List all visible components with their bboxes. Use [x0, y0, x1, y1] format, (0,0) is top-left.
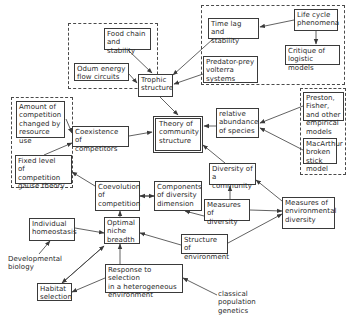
arrow-measures-div-to-components	[185, 211, 204, 216]
arrow-diversity-comm-to-theory	[203, 145, 225, 163]
node-macarthur: MacArthur broken stick model	[303, 138, 337, 164]
arrow-preston-to-rel-abundance	[260, 106, 303, 123]
node-food-chain: Food chain and stability	[104, 28, 151, 50]
node-life-cycle: Life cycle phenomena	[294, 9, 338, 31]
node-theory: Theory of community structure	[153, 116, 203, 153]
node-trophic: Trophic structure	[138, 74, 173, 97]
node-response: Response to selection in a heterogeneous…	[105, 264, 183, 293]
arrow-coexistence-to-theory	[129, 132, 152, 136]
arrow-response-to-habitat	[72, 278, 105, 292]
node-diversity-comm: Diversity of a community	[209, 163, 256, 185]
node-predator-prey: Predator-prey volterra systems	[203, 56, 258, 83]
arrow-developmental-to-homeostasis	[39, 241, 50, 254]
node-niche: Optimal niche breadth	[104, 217, 140, 244]
arrow-trophic-to-theory	[160, 97, 178, 115]
node-critique: Critique of logistic models	[285, 45, 340, 65]
arrow-measures-env-to-diversity-comm	[256, 180, 282, 201]
arrow-structure-env-to-niche	[140, 233, 181, 245]
node-homeostasis: Individual homeostasis	[29, 218, 75, 241]
arrow-measures-div-to-measures-env	[250, 210, 282, 211]
node-preston: Preston, Fisher, and other empirical mod…	[303, 92, 344, 121]
node-measures-env: Measures of environmental diversity	[282, 197, 335, 229]
arrow-homeostasis-to-niche	[75, 228, 104, 233]
concept-map-diagram: Food chain and stabilityOdum energy flow…	[0, 0, 348, 325]
arrow-coevolution-to-fixed-level	[72, 172, 95, 186]
arrow-predator-prey-to-trophic	[174, 74, 203, 84]
node-developmental: Developmental biology	[6, 254, 62, 274]
node-fixed-level: Fixed level of competition gause theory	[15, 155, 72, 184]
node-coexistence: Coexistence of competitors	[72, 126, 129, 147]
node-habitat: Habitat selection	[37, 283, 72, 301]
node-rel-abundance: relative abundance of species	[216, 108, 259, 138]
node-components: Components of diversity dimension	[154, 181, 202, 211]
arrow-classical-to-response	[183, 278, 217, 295]
node-odum: Odum energy flow circuits	[74, 63, 129, 81]
arrowhead-reverse	[62, 246, 104, 283]
node-time-lag: Time lag and stability	[208, 18, 259, 39]
arrow-macarthur-to-rel-abundance	[260, 128, 303, 150]
node-measures-div: Measures of diversity	[204, 199, 250, 221]
node-coevolution: Coevolution of competition	[95, 181, 140, 211]
node-amount-comp: Amount of competition changed by resourc…	[16, 101, 65, 138]
node-classical: classical population genetics	[216, 289, 260, 315]
node-structure-env: Structure of environment	[181, 234, 228, 254]
